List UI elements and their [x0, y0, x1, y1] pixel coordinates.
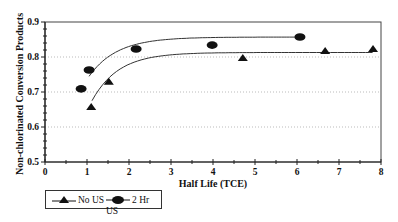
x-tick-label: 7: [337, 167, 342, 177]
x-tick-label: 3: [169, 167, 174, 177]
ellipse-marker: [207, 41, 218, 49]
y-axis-title: Non-chlorinated Conversion Products: [14, 13, 25, 175]
x-axis-title: Half Life (TCE): [179, 178, 247, 190]
triangle-marker: [320, 47, 330, 54]
legend: No US 2 Hr US: [45, 190, 162, 209]
x-tick-label: 5: [253, 167, 258, 177]
x-tick-label: 6: [295, 167, 300, 177]
triangle-marker: [368, 45, 378, 52]
x-tick-label: 0: [43, 167, 48, 177]
tick-labels: 0123456780.50.60.70.80.9: [27, 17, 384, 177]
ellipse-marker-icon: [106, 195, 130, 205]
fit-curve-no-us: [92, 53, 373, 101]
y-tick-label: 0.5: [27, 157, 39, 167]
data-points: [76, 33, 378, 110]
ellipse-marker: [76, 85, 87, 93]
legend-item-2hr-us: 2 Hr US: [106, 194, 161, 216]
ellipse-marker: [294, 33, 305, 41]
y-tick-label: 0.9: [27, 17, 39, 27]
x-tick-label: 1: [85, 167, 90, 177]
y-tick-label: 0.7: [27, 87, 39, 97]
x-tick-label: 4: [211, 167, 216, 177]
triangle-marker: [86, 103, 96, 110]
chart: 0123456780.50.60.70.80.9 Half Life (TCE)…: [0, 0, 398, 222]
triangle-marker-icon: [52, 195, 76, 205]
ellipse-marker: [131, 45, 142, 53]
legend-item-no-us: No US: [52, 194, 104, 205]
x-tick-label: 8: [379, 167, 384, 177]
fit-curves: [89, 37, 373, 101]
y-tick-label: 0.8: [27, 52, 39, 62]
gridlines: [45, 57, 381, 127]
y-tick-label: 0.6: [27, 122, 39, 132]
x-tick-label: 2: [127, 167, 132, 177]
ellipse-marker: [84, 66, 95, 74]
legend-label: No US: [78, 195, 104, 205]
triangle-marker: [238, 54, 248, 61]
